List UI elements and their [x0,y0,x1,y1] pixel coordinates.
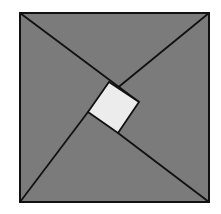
pinwheel-square-diagram [0,0,221,214]
